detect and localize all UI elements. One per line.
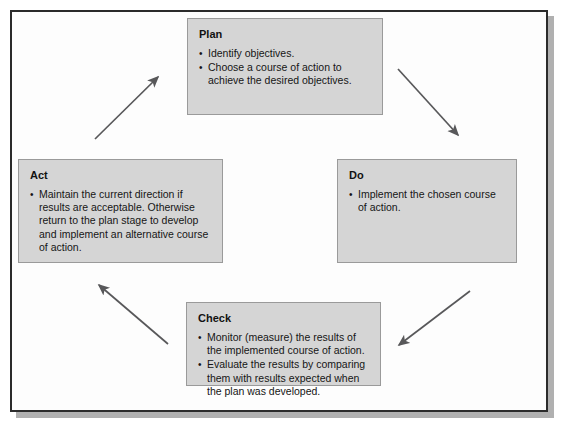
list-item: Implement the chosen course of action. xyxy=(349,188,506,214)
stage-title-plan: Plan xyxy=(199,28,372,41)
stage-bullets-do: Implement the chosen course of action. xyxy=(349,188,506,214)
stage-box-check: Check Monitor (measure) the results of t… xyxy=(186,302,381,386)
stage-title-check: Check xyxy=(198,312,370,325)
list-item: Identify objectives. xyxy=(199,47,372,60)
stage-bullets-check: Monitor (measure) the results of the imp… xyxy=(198,331,370,398)
list-item: Maintain the current direction if result… xyxy=(30,188,212,254)
list-item: Choose a course of action to achieve the… xyxy=(199,61,372,87)
list-item: Evaluate the results by comparing them w… xyxy=(198,358,370,398)
stage-box-plan: Plan Identify objectives. Choose a cours… xyxy=(187,18,383,115)
stage-title-do: Do xyxy=(349,169,506,182)
stage-title-act: Act xyxy=(30,169,212,182)
stage-box-act: Act Maintain the current direction if re… xyxy=(18,159,223,263)
stage-box-do: Do Implement the chosen course of action… xyxy=(337,159,517,263)
stage-bullets-plan: Identify objectives. Choose a course of … xyxy=(199,47,372,88)
stage-bullets-act: Maintain the current direction if result… xyxy=(30,188,212,254)
list-item: Monitor (measure) the results of the imp… xyxy=(198,331,370,357)
